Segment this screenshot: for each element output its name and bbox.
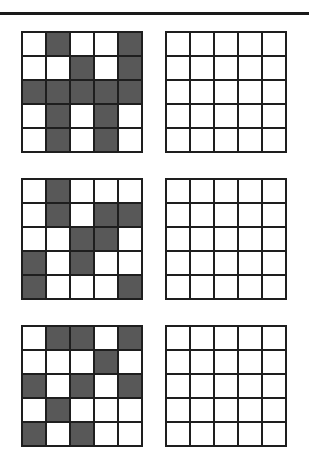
answer-grid-3[interactable] <box>165 325 287 447</box>
filled-cell-r2-c0 <box>22 80 46 104</box>
empty-cell-r1-c3[interactable] <box>238 350 262 374</box>
filled-cell-r3-c1 <box>46 398 70 422</box>
empty-cell-r3-c2 <box>70 104 94 128</box>
empty-cell-r0-c3[interactable] <box>238 32 262 56</box>
empty-cell-r1-c1[interactable] <box>190 350 214 374</box>
empty-cell-r0-c3[interactable] <box>238 179 262 203</box>
empty-cell-r3-c0[interactable] <box>166 398 190 422</box>
empty-cell-r4-c0[interactable] <box>166 275 190 299</box>
empty-cell-r4-c0[interactable] <box>166 128 190 152</box>
empty-cell-r3-c1[interactable] <box>190 398 214 422</box>
empty-cell-r0-c0 <box>22 32 46 56</box>
empty-cell-r0-c1[interactable] <box>190 179 214 203</box>
empty-cell-r1-c0 <box>22 56 46 80</box>
empty-cell-r2-c2[interactable] <box>214 227 238 251</box>
empty-cell-r2-c2[interactable] <box>214 80 238 104</box>
empty-cell-r2-c2[interactable] <box>214 374 238 398</box>
empty-cell-r4-c4[interactable] <box>262 422 286 446</box>
empty-cell-r3-c0[interactable] <box>166 251 190 275</box>
empty-cell-r2-c1[interactable] <box>190 227 214 251</box>
empty-cell-r0-c4[interactable] <box>262 326 286 350</box>
empty-cell-r2-c1[interactable] <box>190 374 214 398</box>
filled-cell-r0-c1 <box>46 179 70 203</box>
empty-cell-r0-c4[interactable] <box>262 179 286 203</box>
answer-grid-1[interactable] <box>165 31 287 153</box>
empty-cell-r4-c4[interactable] <box>262 275 286 299</box>
empty-cell-r0-c2[interactable] <box>214 326 238 350</box>
empty-cell-r0-c0[interactable] <box>166 32 190 56</box>
empty-cell-r2-c3[interactable] <box>238 374 262 398</box>
empty-cell-r1-c4[interactable] <box>262 56 286 80</box>
empty-cell-r3-c3[interactable] <box>238 251 262 275</box>
empty-cell-r0-c2[interactable] <box>214 32 238 56</box>
empty-cell-r0-c1[interactable] <box>190 32 214 56</box>
empty-cell-r4-c2 <box>70 275 94 299</box>
empty-cell-r4-c3[interactable] <box>238 128 262 152</box>
empty-cell-r4-c2[interactable] <box>214 128 238 152</box>
empty-cell-r1-c0[interactable] <box>166 56 190 80</box>
filled-cell-r2-c3 <box>94 227 118 251</box>
empty-cell-r3-c2[interactable] <box>214 251 238 275</box>
empty-cell-r2-c0[interactable] <box>166 80 190 104</box>
filled-cell-r2-c3 <box>94 80 118 104</box>
empty-cell-r1-c0[interactable] <box>166 350 190 374</box>
filled-cell-r3-c1 <box>46 104 70 128</box>
empty-cell-r1-c4 <box>118 350 142 374</box>
empty-cell-r4-c0 <box>22 128 46 152</box>
empty-cell-r4-c0[interactable] <box>166 422 190 446</box>
empty-cell-r3-c3[interactable] <box>238 104 262 128</box>
empty-cell-r2-c3[interactable] <box>238 227 262 251</box>
filled-cell-r4-c4 <box>118 275 142 299</box>
empty-cell-r0-c4[interactable] <box>262 32 286 56</box>
empty-cell-r2-c0[interactable] <box>166 227 190 251</box>
empty-cell-r3-c1[interactable] <box>190 104 214 128</box>
filled-cell-r4-c1 <box>46 128 70 152</box>
empty-cell-r3-c0[interactable] <box>166 104 190 128</box>
empty-cell-r1-c3[interactable] <box>238 203 262 227</box>
empty-cell-r3-c2[interactable] <box>214 104 238 128</box>
empty-cell-r1-c1[interactable] <box>190 203 214 227</box>
empty-cell-r4-c4[interactable] <box>262 128 286 152</box>
empty-cell-r1-c2[interactable] <box>214 350 238 374</box>
empty-cell-r0-c2[interactable] <box>214 179 238 203</box>
empty-cell-r2-c3[interactable] <box>238 80 262 104</box>
answer-grid-2[interactable] <box>165 178 287 300</box>
empty-cell-r0-c0[interactable] <box>166 179 190 203</box>
empty-cell-r1-c4[interactable] <box>262 350 286 374</box>
filled-cell-r1-c2 <box>70 56 94 80</box>
empty-cell-r2-c4[interactable] <box>262 80 286 104</box>
empty-cell-r1-c1 <box>46 56 70 80</box>
empty-cell-r4-c1[interactable] <box>190 275 214 299</box>
empty-cell-r1-c0[interactable] <box>166 203 190 227</box>
empty-cell-r0-c3[interactable] <box>238 326 262 350</box>
empty-cell-r4-c3[interactable] <box>238 422 262 446</box>
empty-cell-r3-c4 <box>118 398 142 422</box>
empty-cell-r2-c4[interactable] <box>262 227 286 251</box>
empty-cell-r1-c2[interactable] <box>214 203 238 227</box>
empty-cell-r0-c2 <box>70 179 94 203</box>
empty-cell-r4-c3[interactable] <box>238 275 262 299</box>
empty-cell-r3-c4[interactable] <box>262 104 286 128</box>
empty-cell-r3-c4[interactable] <box>262 398 286 422</box>
empty-cell-r3-c4[interactable] <box>262 251 286 275</box>
empty-cell-r1-c0 <box>22 350 46 374</box>
empty-cell-r3-c3[interactable] <box>238 398 262 422</box>
empty-cell-r2-c4[interactable] <box>262 374 286 398</box>
empty-cell-r3-c2[interactable] <box>214 398 238 422</box>
empty-cell-r2-c0[interactable] <box>166 374 190 398</box>
empty-cell-r4-c1[interactable] <box>190 422 214 446</box>
empty-cell-r4-c2[interactable] <box>214 422 238 446</box>
empty-cell-r4-c2[interactable] <box>214 275 238 299</box>
empty-cell-r4-c1[interactable] <box>190 128 214 152</box>
empty-cell-r3-c1[interactable] <box>190 251 214 275</box>
empty-cell-r0-c1[interactable] <box>190 326 214 350</box>
empty-cell-r2-c1 <box>46 374 70 398</box>
empty-cell-r2-c1 <box>46 227 70 251</box>
empty-cell-r1-c3[interactable] <box>238 56 262 80</box>
empty-cell-r1-c2[interactable] <box>214 56 238 80</box>
empty-cell-r0-c0[interactable] <box>166 326 190 350</box>
empty-cell-r2-c1[interactable] <box>190 80 214 104</box>
empty-cell-r3-c1 <box>46 251 70 275</box>
empty-cell-r1-c4[interactable] <box>262 203 286 227</box>
empty-cell-r1-c1[interactable] <box>190 56 214 80</box>
